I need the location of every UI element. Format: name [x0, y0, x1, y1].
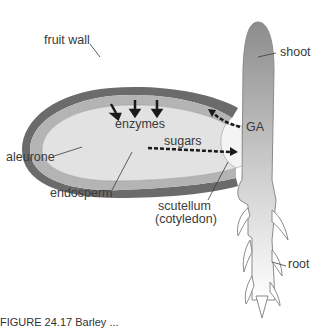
label-shoot: shoot: [280, 45, 311, 59]
label-sugars: sugars: [164, 134, 202, 148]
label-aleurone: aleurone: [6, 150, 55, 164]
label-ga: GA: [246, 120, 265, 134]
label-enzymes: enzymes: [115, 117, 165, 131]
label-cotyledon: (cotyledon): [155, 212, 217, 226]
label-root: root: [288, 257, 310, 271]
label-fruit-wall: fruit wall: [44, 33, 90, 47]
figure-caption: FIGURE 24.17 Barley ...: [0, 316, 321, 328]
label-scutellum: scutellum: [158, 199, 211, 213]
label-endosperm: endosperm: [50, 186, 113, 200]
